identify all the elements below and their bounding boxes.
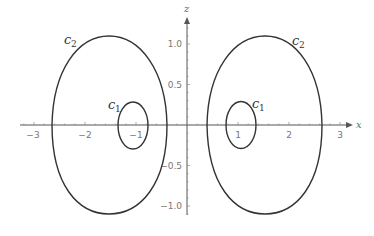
z-tick-label: 0.5: [168, 80, 182, 90]
x-tick-label: 2: [286, 130, 292, 140]
z-axis: z: [183, 3, 190, 215]
z-axis-name: z: [183, 3, 190, 14]
svg-text:2: 2: [299, 40, 305, 50]
label-c1-right: c 1: [252, 96, 265, 113]
x-tick-label: −3: [26, 130, 39, 140]
z-tick-label: −1.0: [160, 201, 182, 211]
svg-text:1: 1: [115, 104, 121, 114]
z-axis-arrow-icon: [184, 17, 190, 24]
label-c2-right: c 2: [292, 33, 305, 50]
svg-text:1: 1: [259, 103, 265, 113]
label-c1-left: c 1: [108, 97, 121, 114]
x-tick-label: 3: [337, 130, 343, 140]
svg-text:2: 2: [71, 39, 77, 49]
x-tick-label: 1: [235, 130, 241, 140]
z-tick-label: 1.0: [168, 39, 183, 49]
x-tick-label: −2: [78, 130, 91, 140]
x-axis-arrow-icon: [346, 122, 353, 128]
diagram-canvas: x z −3 −2 −1 1 2 3 1.0 0.5 −0.5 −1.0 c 2…: [0, 0, 374, 236]
x-axis-name: x: [356, 119, 362, 130]
x-axis: x: [20, 119, 362, 130]
label-c2-left: c 2: [64, 32, 77, 49]
x-tick-label: −1: [129, 130, 142, 140]
